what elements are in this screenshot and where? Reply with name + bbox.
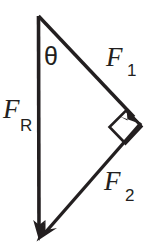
label-force-one-subscript: 1 [127,62,136,79]
label-force-one: F [106,44,123,71]
vector-f2 [37,123,142,242]
vector-fr-shaft [39,16,40,231]
label-force-two-subscript: 2 [125,187,134,204]
label-angle-theta: θ [44,44,58,69]
label-resultant-force-subscript: R [20,117,32,134]
label-resultant-force: F [3,96,20,123]
vector-f2-shaft [44,123,141,234]
label-force-two: F [104,168,121,195]
vector-diagram-figure: F R F 1 F 2 θ [0,0,159,252]
